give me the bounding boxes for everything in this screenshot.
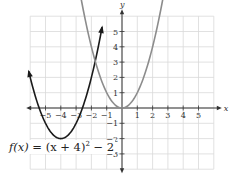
svg-text:1: 1 [113,89,118,98]
svg-text:5: 5 [113,28,118,37]
svg-text:3: 3 [165,111,170,120]
svg-text:x: x [224,104,229,113]
function-equation-label: f(x) = (x + 4)2 − 2 [8,140,115,154]
svg-text:2: 2 [150,111,155,120]
svg-text:3: 3 [113,58,118,67]
svg-text:5: 5 [196,111,201,120]
svg-text:−4: −4 [55,111,67,120]
svg-text:y: y [119,0,125,9]
svg-text:4: 4 [113,43,118,52]
svg-text:2: 2 [113,73,118,82]
svg-text:1: 1 [135,111,140,120]
svg-text:−1: −1 [106,119,118,128]
svg-text:−2: −2 [86,111,98,120]
svg-text:4: 4 [181,111,186,120]
